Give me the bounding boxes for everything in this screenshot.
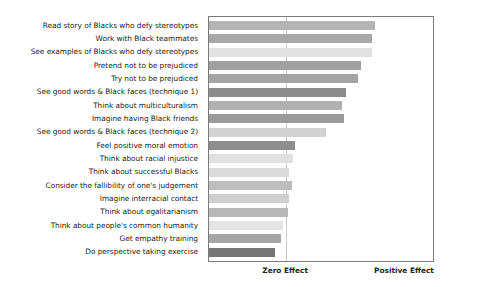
bar: [209, 128, 326, 137]
category-label-row: Read story of Blacks who defy stereotype…: [0, 19, 203, 32]
category-label-row: Get empathy training: [0, 232, 203, 245]
category-label: Imagine having Black friends: [92, 115, 198, 123]
category-label: Try not to be prejudiced: [111, 75, 198, 83]
bar: [209, 234, 281, 243]
bar: [209, 114, 344, 123]
bars-layer: [209, 19, 433, 259]
bar-row: [209, 86, 433, 99]
category-label: See examples of Blacks who defy stereoty…: [31, 48, 198, 56]
bar: [209, 168, 289, 177]
bar-row: [209, 219, 433, 232]
bar-row: [209, 206, 433, 219]
category-label-row: Feel positive moral emotion: [0, 139, 203, 152]
prejudice-reduction-bar-chart: Read story of Blacks who defy stereotype…: [0, 0, 485, 287]
plot-area: [208, 16, 434, 262]
category-label: Pretend not to be prejudiced: [94, 62, 198, 70]
bar-row: [209, 72, 433, 85]
category-label-row: Imagine interracial contact: [0, 192, 203, 205]
bar: [209, 34, 372, 43]
bar: [209, 21, 375, 30]
bar: [209, 194, 289, 203]
bar-row: [209, 152, 433, 165]
bar-row: [209, 126, 433, 139]
bar: [209, 248, 275, 257]
bar-row: [209, 46, 433, 59]
category-label: Get empathy training: [120, 235, 198, 243]
category-label: Think about successful Blacks: [89, 168, 198, 176]
category-label-row: Pretend not to be prejudiced: [0, 59, 203, 72]
category-label-row: Think about egalitarianism: [0, 206, 203, 219]
bar-row: [209, 166, 433, 179]
bar: [209, 221, 283, 230]
category-label: See good words & Black faces (technique …: [37, 128, 198, 136]
bar-row: [209, 232, 433, 245]
bar: [209, 61, 361, 70]
category-label: Read story of Blacks who defy stereotype…: [43, 22, 198, 30]
category-label: Do perspective taking exercise: [85, 248, 198, 256]
category-label-column: Read story of Blacks who defy stereotype…: [0, 19, 203, 259]
bar: [209, 208, 288, 217]
category-label-row: Think about racial injustice: [0, 152, 203, 165]
category-label-row: Imagine having Black friends: [0, 112, 203, 125]
bar: [209, 48, 372, 57]
bar-row: [209, 192, 433, 205]
bar-row: [209, 179, 433, 192]
bar-row: [209, 59, 433, 72]
category-label-row: Think about multiculturalism: [0, 99, 203, 112]
bar: [209, 88, 346, 97]
zero-effect-axis-caption: Zero Effect: [262, 266, 308, 275]
category-label-row: Try not to be prejudiced: [0, 72, 203, 85]
category-label-row: Think about successful Blacks: [0, 166, 203, 179]
bar-row: [209, 32, 433, 45]
bar: [209, 181, 292, 190]
category-label: Feel positive moral emotion: [97, 142, 198, 150]
category-label-row: Work with Black teammates: [0, 32, 203, 45]
category-label: Work with Black teammates: [96, 35, 198, 43]
bar: [209, 141, 295, 150]
bar-row: [209, 99, 433, 112]
category-label: See good words & Black faces (technique …: [37, 88, 198, 96]
category-label-row: Think about people's common humanity: [0, 219, 203, 232]
bar: [209, 154, 293, 163]
category-label: Think about multiculturalism: [93, 102, 198, 110]
category-label-row: See good words & Black faces (technique …: [0, 86, 203, 99]
category-label-row: Consider the fallibility of one's judgem…: [0, 179, 203, 192]
bar: [209, 74, 358, 83]
category-label-row: See good words & Black faces (technique …: [0, 126, 203, 139]
bar: [209, 101, 342, 110]
category-label-row: Do perspective taking exercise: [0, 246, 203, 259]
category-label-row: See examples of Blacks who defy stereoty…: [0, 46, 203, 59]
bar-row: [209, 139, 433, 152]
category-label: Imagine interracial contact: [100, 195, 198, 203]
positive-effect-axis-caption: Positive Effect: [374, 266, 434, 275]
category-label: Think about racial injustice: [100, 155, 198, 163]
bar-row: [209, 112, 433, 125]
category-label: Consider the fallibility of one's judgem…: [46, 182, 198, 190]
category-label: Think about people's common humanity: [51, 222, 198, 230]
bar-row: [209, 246, 433, 259]
category-label: Think about egalitarianism: [100, 208, 198, 216]
bar-row: [209, 19, 433, 32]
